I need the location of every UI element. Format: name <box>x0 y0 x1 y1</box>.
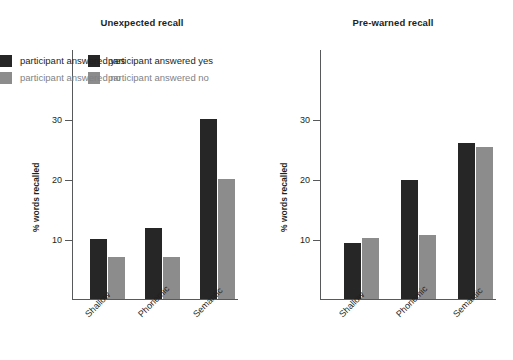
y-tick-label: 20 <box>52 175 62 185</box>
y-axis-title: % words recalled <box>279 163 289 232</box>
bar-shallow-no <box>108 257 125 299</box>
y-tick-mark <box>313 180 320 181</box>
y-tick-mark <box>65 240 72 241</box>
plot-area: 30 20 10 <box>320 50 486 300</box>
y-tick-mark <box>313 120 320 121</box>
panel-title: Unexpected recall <box>14 17 270 28</box>
bar-semantic-yes <box>458 143 475 299</box>
y-axis-title: % words recalled <box>31 163 41 232</box>
legend-item-no: participant answered no <box>0 69 125 86</box>
y-tick-mark <box>65 120 72 121</box>
legend: participant answered yes participant ans… <box>0 52 125 86</box>
y-tick-mark <box>313 240 320 241</box>
y-axis-line <box>72 50 73 300</box>
bar-semantic-yes <box>200 119 217 299</box>
plot-area: 30 20 10 <box>72 50 238 300</box>
chart-panel-prewarned-recall: Pre-warned recall % words recalled 30 20… <box>257 0 513 360</box>
legend-label-yes: participant answered yes <box>20 55 125 66</box>
panel-title: Pre-warned recall <box>265 17 513 28</box>
y-tick-label: 10 <box>52 235 62 245</box>
bar-shallow-no <box>362 238 379 299</box>
figure: Unexpected recall participant answered y… <box>0 0 513 360</box>
legend-label-no: participant answered no <box>20 72 121 83</box>
bar-semantic-no <box>476 147 493 299</box>
y-tick-label: 30 <box>52 115 62 125</box>
legend-swatch-yes <box>0 55 12 67</box>
y-tick-label: 20 <box>300 175 310 185</box>
y-axis-line <box>320 50 321 300</box>
bar-phonemic-yes <box>401 180 418 299</box>
legend-item-yes: participant answered yes <box>0 52 125 69</box>
y-tick-mark <box>65 180 72 181</box>
legend-swatch-no <box>0 72 12 84</box>
bar-semantic-no <box>218 179 235 299</box>
y-tick-label: 30 <box>300 115 310 125</box>
y-tick-label: 10 <box>300 235 310 245</box>
